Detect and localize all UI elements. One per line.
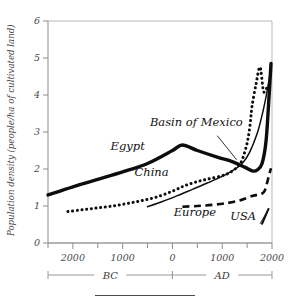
- bottom-rule: [95, 295, 195, 296]
- y-tick-label-3: 3: [34, 126, 40, 137]
- population-density-chart: 0123456 Population density (people/ha of…: [0, 0, 297, 307]
- series-label-basin-of-mexico: Basin of Mexico: [149, 115, 243, 129]
- series-label-egypt: Egypt: [110, 139, 146, 153]
- series-line-china: [148, 67, 271, 206]
- era-axis: BC AD: [48, 270, 272, 281]
- y-tick-label-6: 6: [34, 15, 40, 26]
- y-tick-label-2: 2: [33, 163, 40, 174]
- leader-line-basin-of-mexico: [217, 136, 236, 160]
- x-tick-label-2: 0: [169, 252, 175, 263]
- y-axis: 0123456: [33, 15, 48, 248]
- leader-line-usa: [260, 209, 268, 224]
- series-label-europe: Europe: [173, 205, 217, 219]
- y-tick-label-1: 1: [34, 200, 40, 211]
- series-label-usa: USA: [230, 209, 256, 223]
- x-tick-label-4: 2000: [259, 252, 284, 263]
- y-tick-label-0: 0: [34, 237, 40, 248]
- x-tick-label-3: 1000: [210, 252, 234, 263]
- series-group: [48, 64, 271, 224]
- y-tick-label-4: 4: [33, 89, 40, 100]
- chart-figure: 0123456 Population density (people/ha of…: [0, 0, 297, 307]
- series-line-basin-of-mexico: [68, 67, 267, 211]
- y-tick-label-5: 5: [34, 52, 40, 63]
- x-axis: 20001000010002000: [48, 243, 284, 263]
- x-tick-label-0: 2000: [60, 252, 85, 263]
- x-tick-label-1: 1000: [111, 252, 135, 263]
- era-label-ad: AD: [214, 270, 230, 281]
- series-label-china: China: [134, 165, 168, 179]
- era-label-bc: BC: [102, 270, 119, 281]
- y-axis-title: Population density (people/ha of cultiva…: [6, 24, 16, 237]
